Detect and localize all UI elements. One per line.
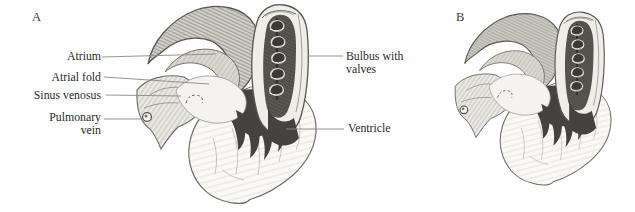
panel-a-label: A xyxy=(32,10,41,25)
heart-illustration xyxy=(0,0,635,212)
pulmonary-vein-label: Pulmonary vein xyxy=(0,111,101,137)
atrial-fold-label: Atrial fold xyxy=(0,71,101,84)
bulbus-label: Bulbus with valves xyxy=(346,50,403,76)
atrium-label: Atrium xyxy=(0,50,101,63)
panel-b-label: B xyxy=(456,10,465,25)
bulbus-label-line2: valves xyxy=(346,63,403,76)
figure-canvas: A B Atrium Atrial fold Sinus venosus Pul… xyxy=(0,0,635,212)
ventricle-label: Ventricle xyxy=(348,122,391,135)
sinus-venosus-label: Sinus venosus xyxy=(0,89,101,102)
pulmonary-vein-label-line2: vein xyxy=(0,124,101,137)
heart-drawing-panel-b xyxy=(455,12,611,185)
heart-drawing-panel-a xyxy=(137,5,316,204)
